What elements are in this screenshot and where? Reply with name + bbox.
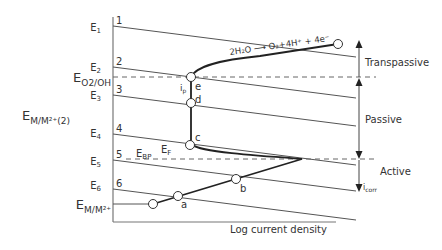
label-a: a: [181, 199, 187, 210]
label-emm2-2: EM/M²⁺(2): [22, 108, 70, 126]
label-e3: E3: [90, 90, 101, 103]
label-e4: E4: [90, 128, 101, 141]
region-passive: Passive: [365, 114, 402, 125]
label-icorr: icorr: [363, 183, 378, 193]
line-number-5: 5: [116, 149, 122, 160]
region-active: Active: [380, 166, 411, 177]
label-e2: E2: [90, 62, 101, 75]
end-point: [334, 40, 343, 49]
line-number-1: 1: [116, 15, 122, 26]
label-e6: E6: [90, 180, 101, 193]
line-3: [113, 95, 356, 126]
active-arrowhead: [356, 184, 363, 192]
transpassive-arrowhead: [356, 40, 363, 48]
passive-arrowhead-up: [356, 78, 363, 86]
label-ip: ip: [180, 83, 187, 95]
line-number-3: 3: [116, 84, 122, 95]
label-b: b: [240, 183, 246, 194]
point-c: [186, 141, 195, 150]
polarization-diagram: E1 E2 EO2/OH E3 EM/M²⁺(2) E4 E5 E6 EM/M²…: [0, 0, 442, 250]
region-transpassive: Transpassive: [364, 57, 429, 68]
passive-arrowhead-down: [356, 151, 363, 159]
line-2: [113, 67, 356, 98]
start-point: [149, 200, 158, 209]
label-d: d: [195, 94, 201, 105]
polarization-curve: [153, 44, 338, 204]
label-ef: EF: [161, 144, 171, 157]
label-e5: E5: [90, 156, 101, 169]
line-number-4: 4: [116, 123, 122, 134]
label-e: e: [195, 81, 201, 92]
x-axis-label: Log current density: [230, 224, 327, 235]
line-number-2: 2: [116, 56, 122, 67]
label-e1: E1: [90, 22, 101, 35]
label-emm2: EM/M²⁺: [76, 197, 111, 215]
line-number-6: 6: [116, 178, 122, 189]
label-c: c: [195, 132, 201, 143]
